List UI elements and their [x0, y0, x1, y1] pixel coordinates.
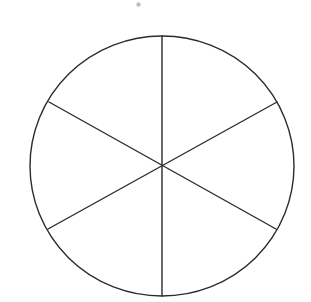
geometry-figure-circle-six-sectors: Circle divided into six equal sectors	[0, 0, 311, 302]
